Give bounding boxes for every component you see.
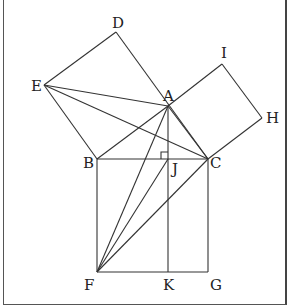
- point-label-D: D: [112, 14, 124, 32]
- segment-ED: [44, 32, 116, 85]
- point-label-F: F: [84, 276, 94, 294]
- segment-EC: [44, 85, 208, 159]
- segment-FC: [97, 159, 208, 272]
- segment-EA: [44, 85, 168, 106]
- point-label-J: J: [170, 160, 178, 178]
- point-label-C: C: [210, 154, 221, 172]
- point-label-H: H: [266, 109, 279, 127]
- point-label-B: B: [83, 154, 94, 172]
- segment-FA: [97, 106, 168, 272]
- right-angle-marker: [161, 152, 168, 159]
- segment-IH: [222, 64, 262, 118]
- segment-HC: [208, 118, 262, 159]
- point-label-K: K: [163, 276, 175, 294]
- segment-EB: [44, 85, 97, 159]
- segment-FJ: [97, 159, 168, 272]
- geometry-diagram: DEAIHBJCFKG: [0, 0, 296, 308]
- point-label-G: G: [210, 276, 222, 294]
- segment-AI: [168, 64, 222, 106]
- point-label-A: A: [162, 87, 174, 105]
- point-label-I: I: [221, 44, 227, 62]
- segment-AC: [168, 106, 208, 159]
- point-label-E: E: [31, 77, 42, 95]
